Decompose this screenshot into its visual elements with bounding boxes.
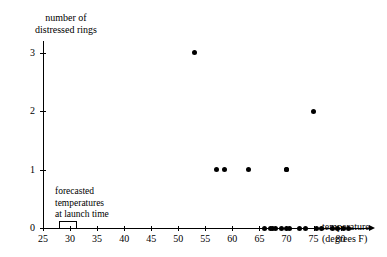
y-tick bbox=[40, 170, 46, 171]
x-tick-label: 55 bbox=[193, 234, 217, 244]
x-tick-label: 65 bbox=[247, 234, 271, 244]
x-tick-label: 40 bbox=[112, 234, 136, 244]
y-tick bbox=[40, 228, 46, 229]
data-point bbox=[330, 226, 335, 231]
y-tick-label: 2 bbox=[17, 106, 35, 116]
data-point bbox=[222, 167, 227, 172]
y-axis-title-line2: distressed rings bbox=[6, 24, 126, 36]
forecasted-temperature-marker bbox=[59, 221, 77, 229]
data-point bbox=[273, 226, 278, 231]
data-point bbox=[192, 50, 197, 55]
data-point bbox=[279, 226, 284, 231]
x-tick bbox=[259, 226, 260, 231]
data-point bbox=[314, 226, 319, 231]
x-tick-label: 70 bbox=[274, 234, 298, 244]
data-point bbox=[311, 109, 316, 114]
data-point bbox=[262, 226, 267, 231]
x-tick bbox=[97, 226, 98, 231]
y-axis-line bbox=[43, 41, 44, 229]
x-tick-label: 50 bbox=[166, 234, 190, 244]
data-point bbox=[319, 226, 324, 231]
y-tick-label: 0 bbox=[17, 223, 35, 233]
data-point bbox=[341, 226, 346, 231]
data-point bbox=[346, 226, 351, 231]
forecast-annotation-line2: temperatures bbox=[55, 198, 145, 210]
y-tick-label: 1 bbox=[17, 165, 35, 175]
x-tick-label: 45 bbox=[139, 234, 163, 244]
x-tick bbox=[124, 226, 125, 231]
data-point bbox=[297, 226, 302, 231]
data-point bbox=[335, 226, 340, 231]
data-point bbox=[303, 226, 308, 231]
forecast-annotation-line3: at launch time bbox=[55, 209, 145, 221]
y-tick bbox=[40, 111, 46, 112]
data-point bbox=[214, 167, 219, 172]
data-point bbox=[287, 226, 292, 231]
x-tick-label: 35 bbox=[85, 234, 109, 244]
x-axis-arrowhead bbox=[369, 225, 375, 231]
data-point bbox=[284, 167, 289, 172]
forecast-annotation: forecasted temperatures at launch time bbox=[55, 186, 145, 221]
y-axis-title-line1: number of bbox=[6, 12, 126, 24]
x-tick-label: 75 bbox=[302, 234, 326, 244]
x-tick bbox=[178, 226, 179, 231]
scatter-plot: number of distressed rings temperature (… bbox=[0, 0, 387, 257]
x-tick-label: 30 bbox=[58, 234, 82, 244]
x-tick bbox=[232, 226, 233, 231]
forecast-annotation-line1: forecasted bbox=[55, 186, 145, 198]
y-tick-label: 3 bbox=[17, 48, 35, 58]
data-point bbox=[246, 167, 251, 172]
x-tick-label: 60 bbox=[220, 234, 244, 244]
y-axis-title: number of distressed rings bbox=[6, 12, 126, 36]
x-tick-label: 80 bbox=[329, 234, 353, 244]
x-tick bbox=[151, 226, 152, 231]
x-tick bbox=[205, 226, 206, 231]
y-tick bbox=[40, 53, 46, 54]
x-tick-label: 25 bbox=[31, 234, 55, 244]
